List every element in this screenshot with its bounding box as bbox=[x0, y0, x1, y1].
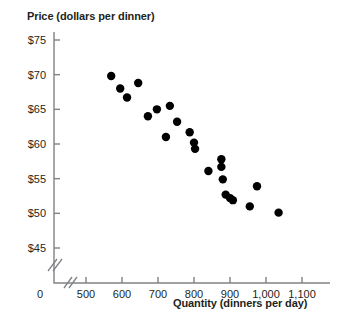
data-point bbox=[229, 196, 237, 204]
y-tick-label: $60 bbox=[28, 138, 46, 150]
scatter-chart: Price (dollars per dinner) $45$50$55$60$… bbox=[0, 0, 342, 316]
data-point bbox=[123, 93, 131, 101]
y-tick-label: $45 bbox=[28, 242, 46, 254]
plot-area: $45$50$55$60$65$70$7505006007008009001,0… bbox=[0, 0, 342, 316]
data-point bbox=[116, 84, 124, 92]
y-tick-label: $75 bbox=[28, 34, 46, 46]
x-tick-label: 500 bbox=[77, 288, 95, 300]
axes-group bbox=[54, 32, 330, 283]
data-point bbox=[217, 163, 225, 171]
y-tick-label: $50 bbox=[28, 207, 46, 219]
y-tick-label: $65 bbox=[28, 103, 46, 115]
data-point bbox=[191, 145, 199, 153]
x-tick-label: 700 bbox=[149, 288, 167, 300]
data-point bbox=[153, 105, 161, 113]
data-point-group bbox=[107, 72, 283, 217]
data-point bbox=[162, 133, 170, 141]
x-axis-title: Quantity (dinners per day) bbox=[173, 297, 307, 309]
data-point bbox=[173, 118, 181, 126]
data-point bbox=[185, 128, 193, 136]
data-point bbox=[204, 167, 212, 175]
y-tick-label: $70 bbox=[28, 69, 46, 81]
x-origin-label: 0 bbox=[37, 288, 43, 300]
data-point bbox=[219, 175, 227, 183]
data-point bbox=[107, 72, 115, 80]
tick-label-group: $45$50$55$60$65$70$7505006007008009001,0… bbox=[28, 34, 316, 300]
x-tick-label: 600 bbox=[113, 288, 131, 300]
data-point bbox=[274, 208, 282, 216]
data-point bbox=[134, 79, 142, 87]
data-point bbox=[144, 112, 152, 120]
data-point bbox=[253, 182, 261, 190]
y-tick-label: $55 bbox=[28, 173, 46, 185]
tick-group bbox=[54, 40, 302, 283]
data-point bbox=[166, 102, 174, 110]
data-point bbox=[246, 202, 254, 210]
data-point bbox=[217, 155, 225, 163]
